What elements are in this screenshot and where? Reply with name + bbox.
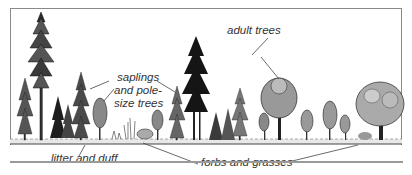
forbs-shrubs-icon [112,118,153,139]
label-litter-and-duff: litter and duff [51,152,117,165]
forest-scene [0,0,412,175]
pole-size-deciduous-icon [259,113,269,140]
adult-deciduous-icon [356,82,404,140]
sapling-conifer-icon [50,96,75,138]
pole-size-deciduous-icon [93,98,107,140]
conifer-icon [17,78,33,140]
label-saplings-line1: saplings [117,71,159,84]
ground-litter-layer [10,139,402,144]
label-saplings-line2: and pole- [114,84,162,97]
label-adult-trees: adult trees [227,24,281,37]
label-saplings-line3: size trees [114,97,163,110]
bottom-rule [10,161,403,163]
sapling-conifer-icon [232,88,248,140]
tall-conifer-icon [28,12,54,140]
adult-conifer-icon [182,36,210,140]
conifer-icon [209,108,235,140]
sapling-conifer-icon [72,72,90,140]
adult-deciduous-icon [261,78,297,140]
pole-size-deciduous-icon [301,101,350,140]
pole-size-deciduous-icon [152,110,163,140]
sapling-conifer-icon [169,86,185,140]
